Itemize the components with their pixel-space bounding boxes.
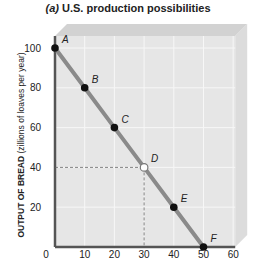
- data-point-c: [111, 124, 119, 132]
- point-label-c: C: [121, 114, 129, 125]
- y-axis-label-units: (zillions of loaves per year): [16, 52, 26, 153]
- x-tick-label: 60: [228, 249, 240, 260]
- point-label-e: E: [181, 193, 188, 204]
- point-label-b: B: [92, 74, 99, 85]
- plot-background: [55, 36, 235, 247]
- box-right-face: [235, 24, 247, 247]
- x-tick-label: 40: [168, 249, 180, 260]
- data-point-d: [140, 164, 148, 172]
- x-tick-label: 30: [139, 249, 151, 260]
- y-axis-label-bold: OUTPUT OF BREAD: [16, 156, 26, 238]
- y-tick-label: 60: [30, 122, 42, 133]
- x-tick-label: 20: [109, 249, 121, 260]
- y-tick-label: 40: [30, 162, 42, 173]
- chart-plot: 010203040506020406080100ABCDEF: [0, 0, 256, 261]
- data-point-f: [200, 243, 208, 251]
- y-tick-label: 20: [30, 202, 42, 213]
- y-tick-label: 80: [30, 82, 42, 93]
- y-tick-label: 100: [24, 43, 41, 54]
- data-point-a: [51, 44, 59, 52]
- point-label-a: A: [61, 34, 69, 45]
- x-tick-label: 0: [43, 249, 49, 260]
- point-label-f: F: [211, 233, 218, 244]
- point-label-d: D: [151, 153, 158, 164]
- box-top-face: [55, 24, 247, 36]
- data-point-b: [81, 84, 89, 92]
- data-point-e: [170, 203, 178, 211]
- y-axis-label: OUTPUT OF BREAD (zillions of loaves per …: [16, 45, 26, 245]
- x-tick-label: 10: [79, 249, 91, 260]
